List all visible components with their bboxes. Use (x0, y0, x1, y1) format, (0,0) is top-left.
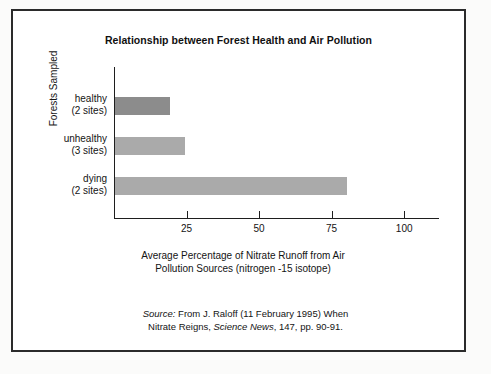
bars-layer (115, 67, 439, 218)
category-name: unhealthy (0, 133, 107, 145)
source-publication: Science News (214, 321, 274, 332)
plot-area: healthy (2 sites) unhealthy (3 sites) dy… (114, 67, 439, 227)
category-label-unhealthy: unhealthy (3 sites) (0, 133, 107, 156)
x-axis-title-line1: Average Percentage of Nitrate Runoff fro… (141, 250, 345, 261)
category-sublabel: (2 sites) (0, 185, 107, 197)
x-tick-25 (187, 211, 188, 219)
source-line2-pre: Nitrate Reigns, (148, 321, 213, 332)
category-name: healthy (0, 93, 107, 105)
bar-dying (115, 177, 347, 195)
x-tick-label-25: 25 (167, 223, 207, 234)
x-tick-75 (332, 211, 333, 219)
source-note-line2: Nitrate Reigns, Science News, 147, pp. 9… (73, 320, 418, 333)
bar-unhealthy (115, 137, 185, 155)
figure-frame: Relationship between Forest Health and A… (11, 9, 466, 352)
category-name: dying (0, 173, 107, 185)
x-tick-50 (259, 211, 260, 219)
y-axis-title: Forests Sampled (48, 29, 59, 149)
source-note-line1: Source: From J. Raloff (11 February 1995… (73, 307, 418, 320)
source-label: Source: (143, 308, 176, 319)
chart-title: Relationship between Forest Health and A… (13, 34, 464, 46)
x-axis-title: Average Percentage of Nitrate Runoff fro… (73, 250, 413, 275)
bar-healthy (115, 97, 170, 115)
x-tick-label-50: 50 (239, 223, 279, 234)
category-label-healthy: healthy (2 sites) (0, 93, 107, 116)
source-line2-post: , 147, pp. 90-91. (274, 321, 343, 332)
x-tick-100 (404, 211, 405, 219)
x-tick-label-75: 75 (312, 223, 352, 234)
figure-root: Relationship between Forest Health and A… (0, 0, 491, 374)
source-note: Source: From J. Raloff (11 February 1995… (73, 307, 418, 333)
category-sublabel: (2 sites) (0, 105, 107, 117)
x-tick-label-100: 100 (384, 223, 424, 234)
category-label-dying: dying (2 sites) (0, 173, 107, 196)
x-axis-line (114, 218, 439, 219)
source-line1-rest: From J. Raloff (11 February 1995) When (175, 308, 348, 319)
category-sublabel: (3 sites) (0, 145, 107, 157)
x-axis-title-line2: Pollution Sources (nitrogen -15 isotope) (155, 263, 331, 274)
